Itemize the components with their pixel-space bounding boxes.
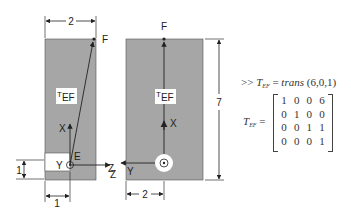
point-e-label: E: [74, 151, 81, 162]
matrix-cell: 0: [292, 121, 302, 135]
result-lhs-sub: EF: [249, 122, 256, 128]
right-z-axis-label: Z: [108, 163, 114, 174]
matrix-cell: 1: [292, 108, 302, 122]
point-f-marker: [92, 37, 95, 40]
height-dimension-label: 7: [216, 97, 222, 108]
matrix-cell: 0: [317, 108, 327, 122]
width-dimension-label: 2: [68, 16, 74, 27]
trans-command: >> TEF = trans (6,0,1): [241, 76, 336, 89]
command-function: trans: [281, 76, 304, 88]
right-y-axis-label: Y: [127, 166, 134, 177]
matrix-cell: 1: [279, 94, 289, 108]
x-axis-label: X: [59, 123, 66, 134]
matrix-cell: 0: [304, 108, 314, 122]
point-f-label: F: [102, 34, 108, 45]
matrix-cell: 0: [279, 135, 289, 149]
matrix-cell: 0: [304, 94, 314, 108]
vertical-offset-label: 1: [16, 165, 22, 176]
matrix-row: 1 0 0 6: [274, 94, 332, 108]
matrix-cell: 1: [317, 135, 327, 149]
result-equals: =: [259, 115, 265, 127]
result-lhs: TEF =: [243, 115, 265, 128]
right-x-axis-label: X: [170, 118, 177, 129]
matrix-row: 0 0 0 1: [274, 135, 332, 149]
command-equals: =: [272, 76, 278, 88]
matrix-row: 0 0 1 1: [274, 121, 332, 135]
command-lhs-sub: EF: [262, 83, 269, 89]
matrix-cell: 1: [317, 121, 327, 135]
right-width-dimension-label: 2: [142, 189, 148, 200]
y-axis-label: Y: [56, 160, 63, 171]
right-view: 7 2 F TEF X Z Y: [108, 21, 224, 200]
matrix-cell: 0: [292, 94, 302, 108]
matrix-cell: 6: [317, 94, 327, 108]
matrix-cell: 1: [304, 121, 314, 135]
command-args: (6,0,1): [307, 76, 336, 88]
matrix-cell: 0: [304, 135, 314, 149]
matrix-cell: 0: [279, 108, 289, 122]
horizontal-offset-label: 1: [54, 198, 60, 209]
matrix-cell: 0: [292, 135, 302, 149]
matrix-row: 0 1 0 0: [274, 108, 332, 122]
result-matrix: 1 0 0 6 0 1 0 0 0 0 1 1 0 0 0 1: [273, 94, 333, 152]
matrix-cell: 0: [279, 121, 289, 135]
left-view: 2 1 1 F TEF X Z Y E: [16, 16, 116, 209]
right-point-f-label: F: [161, 21, 167, 32]
prompt: >>: [241, 76, 253, 88]
